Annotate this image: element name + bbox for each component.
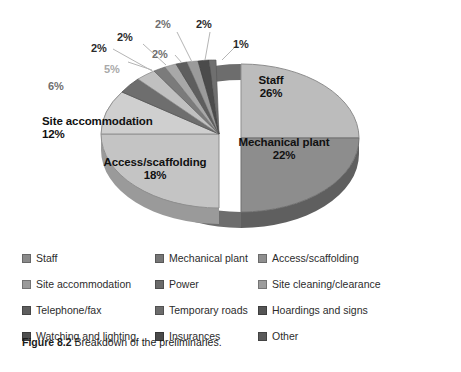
legend-swatch-icon (258, 306, 267, 315)
legend-item-site-cleaning-clearance[interactable]: Site cleaning/clearance (258, 274, 381, 294)
legend-item-power[interactable]: Power (155, 274, 199, 294)
pie-label-mechanical-plant: Mechanical plant 22% (227, 136, 341, 162)
figure-caption-lead: Figure 8.2 (22, 336, 72, 348)
legend-item-site-accommodation[interactable]: Site accommodation (22, 274, 131, 294)
pie-callout-other: 1% (233, 38, 249, 50)
pie-label-staff: Staff 26% (238, 74, 304, 100)
legend-item-label: Site cleaning/clearance (272, 278, 381, 290)
legend-row: Telephone/fax Temporary roads Hoardings … (22, 300, 442, 320)
leader-line-watching-and-lighting (177, 32, 192, 62)
legend-item-label: Site accommodation (36, 278, 131, 290)
pie-callout-hoardings-and-signs: 2% (152, 48, 168, 60)
pie-label-staff-text: Staff (258, 74, 283, 86)
legend-swatch-icon (155, 306, 164, 315)
legend-item-label: Access/scaffolding (272, 252, 359, 264)
pie-group-left (101, 60, 219, 224)
legend-item-other[interactable]: Other (258, 326, 298, 346)
legend-item-label: Other (272, 330, 298, 342)
pie-label-mechanical-plant-value: 22% (227, 149, 341, 162)
pie-label-mechanical-plant-text: Mechanical plant (238, 136, 329, 148)
legend-row: Staff Mechanical plant Access/scaffoldin… (22, 248, 442, 268)
legend-swatch-icon (258, 254, 267, 263)
figure-container: Staff 26% Mechanical plant 22% Access/sc… (0, 0, 461, 372)
legend-swatch-icon (258, 280, 267, 289)
legend-row: Site accommodation Power Site cleaning/c… (22, 274, 442, 294)
pie-label-access-scaffolding-value: 18% (96, 169, 214, 182)
legend-item-label: Telephone/fax (36, 304, 101, 316)
legend-swatch-icon (155, 280, 164, 289)
legend-item-label: Temporary roads (169, 304, 248, 316)
pie-callout-temporary-roads: 2% (117, 31, 133, 43)
pie-callout-site-cleaning-clearance: 5% (104, 63, 120, 75)
pie-callout-insurances: 2% (196, 18, 212, 30)
legend-swatch-icon (155, 254, 164, 263)
pie-label-access-scaffolding: Access/scaffolding 18% (96, 156, 214, 182)
leader-line-hoardings-and-signs (175, 55, 182, 63)
figure-caption: Figure 8.2 Breakdown of the preliminarie… (22, 336, 222, 349)
legend-item-telephone-fax[interactable]: Telephone/fax (22, 300, 101, 320)
legend-item-label: Power (169, 278, 199, 290)
pie-label-site-accommodation-text: Site accommodation (42, 115, 153, 127)
legend-item-temporary-roads[interactable]: Temporary roads (155, 300, 248, 320)
pie-callout-power: 6% (48, 80, 64, 92)
legend-swatch-icon (22, 306, 31, 315)
legend-item-label: Hoardings and signs (272, 304, 368, 316)
legend-item-mechanical-plant[interactable]: Mechanical plant (155, 248, 248, 268)
pie-chart: Staff 26% Mechanical plant 22% Access/sc… (0, 0, 461, 240)
pie-label-site-accommodation-value: 12% (42, 128, 170, 141)
pie-label-staff-value: 26% (238, 87, 304, 100)
legend-item-label: Mechanical plant (169, 252, 248, 264)
leader-line-insurances (205, 32, 210, 60)
legend-swatch-icon (258, 332, 267, 341)
legend-item-hoardings-and-signs[interactable]: Hoardings and signs (258, 300, 368, 320)
legend-item-label: Staff (36, 252, 57, 264)
pie-label-site-accommodation: Site accommodation 12% (42, 115, 170, 141)
legend-item-staff[interactable]: Staff (22, 248, 57, 268)
figure-caption-text: Breakdown of the preliminaries. (75, 336, 222, 348)
legend-item-access-scaffolding[interactable]: Access/scaffolding (258, 248, 359, 268)
pie-label-access-scaffolding-text: Access/scaffolding (103, 156, 206, 168)
pie-callout-telephone-fax: 2% (91, 42, 107, 54)
legend-swatch-icon (22, 280, 31, 289)
pie-callout-watching-and-lighting: 2% (155, 18, 171, 30)
legend-swatch-icon (22, 254, 31, 263)
chart-legend: Staff Mechanical plant Access/scaffoldin… (22, 248, 442, 330)
